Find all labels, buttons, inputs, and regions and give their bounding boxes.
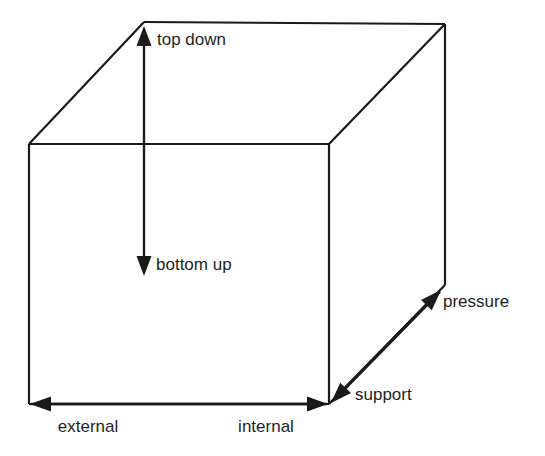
diagram-background <box>0 0 545 456</box>
axis-label-top-down: top down <box>157 30 226 49</box>
axis-label-internal: internal <box>238 417 294 436</box>
axis-label-pressure: pressure <box>443 292 509 311</box>
axis-label-bottom-up: bottom up <box>156 255 232 274</box>
cube-diagram-svg: top downbottom upexternalinternalsupport… <box>0 0 545 456</box>
axis-label-external: external <box>58 417 118 436</box>
cube-diagram-canvas: top downbottom upexternalinternalsupport… <box>0 0 545 456</box>
axis-label-support: support <box>355 385 412 404</box>
